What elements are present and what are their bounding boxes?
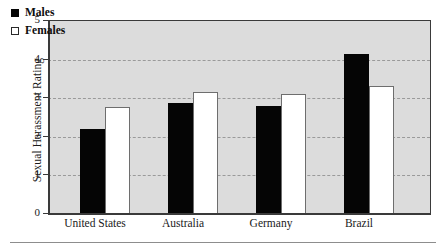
legend-item-males: Males: [11, 5, 65, 21]
x-axis-line: [48, 213, 431, 215]
y-axis-line: [48, 20, 50, 215]
y-tick-mark-0: [43, 213, 48, 214]
bar-males-united-states: [80, 129, 105, 214]
y-tick-label-2: 2: [26, 130, 40, 141]
x-tick-label-united-states: United States: [55, 217, 135, 229]
y-tick-label-1: 1: [26, 168, 40, 179]
bar-males-germany: [256, 106, 281, 214]
bar-females-australia: [193, 92, 218, 214]
x-tick-label-brazil: Brazil: [319, 217, 399, 229]
bar-chart-figure: Sexual Harassment Rating 5 4 3 2 1 0 Uni…: [0, 0, 446, 251]
legend-label-males: Males: [25, 7, 54, 19]
gridline-4: [48, 60, 430, 61]
legend-label-females: Females: [25, 25, 65, 37]
x-tick-label-australia: Australia: [143, 217, 223, 229]
footer-divider: [10, 242, 436, 243]
y-tick-label-4: 4: [26, 53, 40, 64]
outlined-square-icon: [11, 27, 19, 35]
y-tick-mark-2: [43, 136, 48, 137]
bar-females-united-states: [105, 107, 130, 214]
bar-females-germany: [281, 94, 306, 214]
chart-legend: Males Females: [11, 5, 65, 41]
filled-square-icon: [11, 9, 19, 17]
y-axis-title: Sexual Harassment Rating: [31, 20, 43, 220]
legend-item-females: Females: [11, 23, 65, 39]
plot-area: [48, 20, 431, 214]
y-tick-mark-4: [43, 59, 48, 60]
y-tick-label-0: 0: [26, 207, 40, 218]
y-tick-mark-3: [43, 97, 48, 98]
y-tick-label-3: 3: [26, 91, 40, 102]
bar-males-brazil: [344, 54, 369, 214]
bar-females-brazil: [369, 86, 394, 214]
bar-males-australia: [168, 103, 193, 214]
x-tick-label-germany: Germany: [231, 217, 311, 229]
y-tick-mark-1: [43, 174, 48, 175]
